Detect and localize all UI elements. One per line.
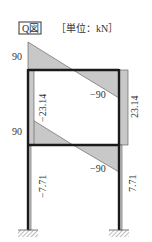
- lower-beam-left-value: 90: [12, 126, 22, 137]
- shear-diagram: Q図 ［単位：kN］ 90 −90 90 −90 −23.14 23.14 −7…: [0, 0, 152, 242]
- upper-right-column-value: 23.14: [129, 96, 140, 119]
- top-beam-shear-positive: [28, 42, 73, 70]
- upper-right-column-shear: [119, 70, 128, 145]
- lower-beam-shear-positive: [28, 117, 73, 145]
- lower-beam-right-value: −90: [90, 163, 106, 174]
- lower-right-column-value: 7.71: [127, 175, 138, 193]
- unit-label: ［単位：kN］: [56, 22, 118, 34]
- diagram-title: Q図: [22, 23, 39, 34]
- upper-left-column-value: −23.14: [37, 94, 48, 122]
- top-beam-right-value: −90: [90, 89, 106, 100]
- right-fixed-support-hatch: [109, 230, 129, 237]
- left-fixed-support-hatch: [18, 230, 38, 237]
- top-beam-left-value: 90: [12, 51, 22, 62]
- lower-left-column-value: −7.71: [37, 175, 48, 198]
